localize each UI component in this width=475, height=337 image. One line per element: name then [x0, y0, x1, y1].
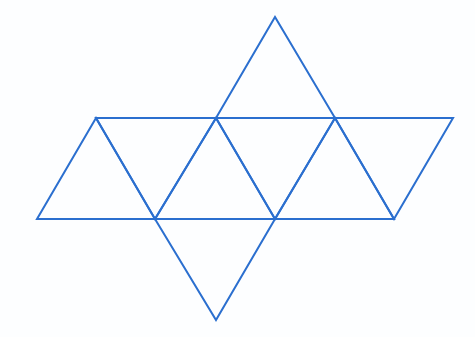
row-face-5 [275, 118, 394, 219]
octahedron-net [0, 0, 475, 337]
bottom-face [155, 219, 275, 320]
diagram-canvas [0, 0, 475, 337]
faces-group [37, 17, 453, 320]
top-face [216, 17, 335, 118]
row-face-6 [335, 118, 453, 219]
row-face-3 [155, 118, 275, 219]
row-face-4 [216, 118, 335, 219]
row-face-1 [37, 118, 155, 219]
row-face-2 [96, 118, 216, 219]
